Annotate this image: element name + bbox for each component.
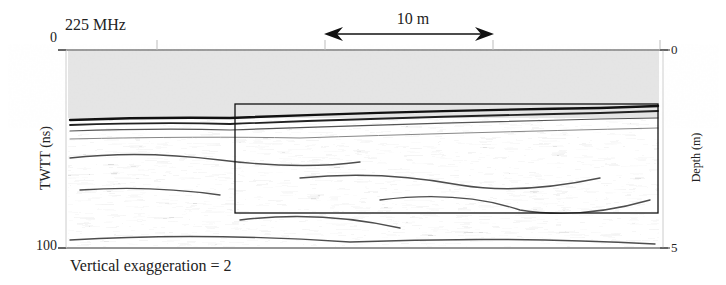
top-axis — [58, 40, 668, 50]
radargram-figure — [0, 0, 726, 285]
scale-arrow-icon — [324, 27, 494, 41]
